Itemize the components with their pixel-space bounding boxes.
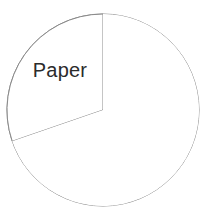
pie-chart-svg: Paper xyxy=(0,0,205,218)
pie-chart-container: Paper xyxy=(0,0,205,218)
pie-slice-label-paper: Paper xyxy=(33,59,88,81)
